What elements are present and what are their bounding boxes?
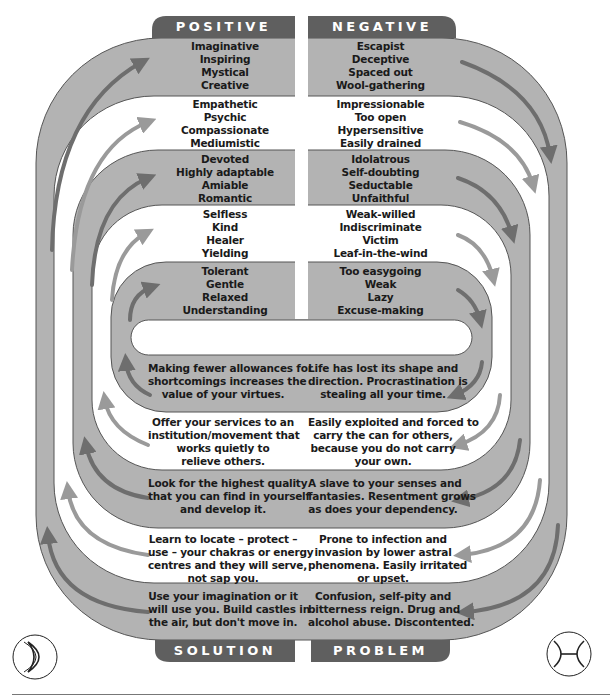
problem-text-2: Easily exploited and forced to carry the… <box>308 416 458 468</box>
solution-text-3: Look for the highest quality that you ca… <box>148 477 298 516</box>
problem-text-4: Prone to infection and invasion by lower… <box>308 533 458 585</box>
solution-header: SOLUTION <box>155 640 295 662</box>
footer-rule <box>12 694 610 695</box>
positive-header: POSITIVE <box>152 16 295 38</box>
positive-traits-5: Tolerant Gentle Relaxed Understanding <box>155 265 295 317</box>
positive-traits-1: Imaginative Inspiring Mystical Creative <box>155 40 295 92</box>
positive-traits-2: Empathetic Psychic Compassionate Mediumi… <box>155 98 295 150</box>
negative-traits-3: Idolatrous Self-doubting Seductable Unfa… <box>308 153 453 205</box>
problem-text-3: A slave to your senses and fantasies. Re… <box>308 477 458 516</box>
pisces-symbol-icon <box>547 632 591 676</box>
moon-crescent-icon <box>13 635 57 679</box>
center-divider <box>295 14 308 319</box>
problem-text-5: Confusion, self-pity and bitterness reig… <box>308 590 458 629</box>
negative-traits-1: Escapist Deceptive Spaced out Wool-gathe… <box>308 40 453 92</box>
solution-text-1: Making fewer allowances for shortcomings… <box>148 362 298 401</box>
center-slot <box>131 320 472 355</box>
negative-traits-2: Impressionable Too open Hypersensitive E… <box>308 98 453 150</box>
solution-text-2: Offer your services to an institution/mo… <box>148 416 298 468</box>
problem-text-1: Life has lost its shape and direction. P… <box>308 362 458 401</box>
solution-text-5: Use your imagination or it will use you.… <box>148 590 298 629</box>
positive-traits-3: Devoted Highly adaptable Amiable Romanti… <box>155 153 295 205</box>
positive-traits-4: Selfless Kind Healer Yielding <box>155 208 295 260</box>
ring-diagram <box>0 0 610 699</box>
solution-text-4: Learn to locate – protect – use – your c… <box>148 533 298 585</box>
negative-header: NEGATIVE <box>308 16 456 38</box>
problem-header: PROBLEM <box>311 640 450 662</box>
negative-traits-4: Weak-willed Indiscriminate Victim Leaf-i… <box>308 208 453 260</box>
negative-traits-5: Too easygoing Weak Lazy Excuse-making <box>308 265 453 317</box>
